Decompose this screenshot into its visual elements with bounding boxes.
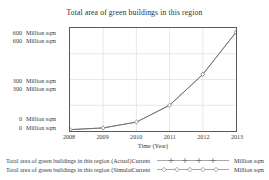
x-axis-label: Time (Year)	[69, 142, 237, 149]
data-series-layer	[70, 28, 236, 131]
legend-line-sample-diamond	[156, 165, 230, 174]
y-tick-0-secondary: 0 Million sqm	[0, 123, 66, 132]
series-0	[70, 30, 236, 131]
y-tick-value: 600	[0, 38, 22, 44]
x-tick-2008: 2008	[56, 134, 82, 140]
y-tick-value: 0	[0, 125, 22, 131]
x-tick-2012: 2012	[190, 134, 216, 140]
x-tick-2013: 2013	[224, 134, 250, 140]
legend-line-sample-plus	[156, 156, 230, 165]
y-tick-600-secondary: 600 Million sqm	[0, 36, 66, 45]
y-tick-value: 600	[0, 30, 22, 36]
legend-state: Current	[132, 158, 156, 164]
series-1	[70, 30, 236, 131]
legend-label: Total area of green buildings in this re…	[6, 158, 132, 164]
y-tick-unit: Million sqm	[26, 125, 56, 131]
legend-unit: Million sqm	[234, 167, 264, 173]
x-tick-2011: 2011	[157, 134, 183, 140]
legend-label: Total area of green buildings in this re…	[6, 167, 132, 173]
y-tick-unit: Million sqm	[26, 78, 56, 84]
y-tick-unit: Million sqm	[26, 86, 56, 92]
y-tick-300-secondary: 300 Million sqm	[0, 84, 66, 93]
y-tick-value: 300	[0, 86, 22, 92]
y-tick-unit: Million sqm	[26, 116, 56, 122]
y-tick-unit: Million sqm	[26, 30, 56, 36]
plot-area	[69, 27, 237, 132]
legend-state: Current	[132, 167, 156, 173]
chart-title: Total area of green buildings in this re…	[0, 8, 269, 17]
y-tick-value: 300	[0, 78, 22, 84]
y-tick-value: 0	[0, 116, 22, 122]
x-tick-2009: 2009	[90, 134, 116, 140]
legend-item-simulate: Total area of green buildings in this re…	[6, 165, 264, 174]
x-tick-2010: 2010	[123, 134, 149, 140]
y-tick-unit: Million sqm	[26, 38, 56, 44]
chart-container: Total area of green buildings in this re…	[0, 0, 269, 180]
chart-legend: Total area of green buildings in this re…	[6, 156, 264, 174]
legend-item-actual: Total area of green buildings in this re…	[6, 156, 264, 165]
y-tick-0-primary: 0 Million sqm	[0, 114, 66, 123]
legend-unit: Million sqm	[234, 158, 264, 164]
